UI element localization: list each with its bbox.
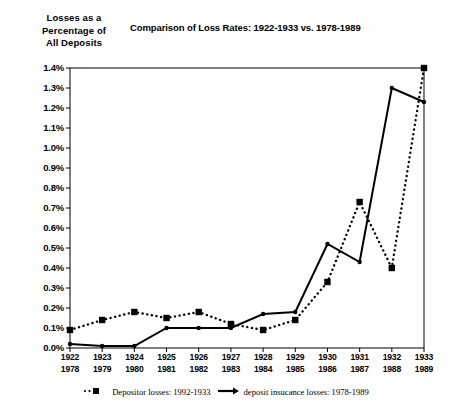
y-tick-label: 0.6% [18,222,64,233]
x-tick-label-bottom: 1989 [402,364,446,374]
legend-entry-depositor-losses: Depositor losses: 1992-1933 [83,386,216,398]
data-point-marker [325,242,329,246]
plot-frame [70,68,424,348]
data-point-marker [163,315,169,321]
series-line-2 [70,88,424,346]
chart-plot-area [0,0,458,411]
legend-label-1: Depositor losses: 1992-1933 [109,387,216,397]
y-tick-label: 0.1% [18,322,64,333]
data-point-marker [67,327,73,333]
y-tick-label: 0.8% [18,182,64,193]
data-point-marker [389,265,395,271]
data-point-marker [260,327,266,333]
data-point-marker [68,342,72,346]
y-tick-label: 1.4% [18,62,64,73]
data-point-marker [229,326,233,330]
data-point-marker [390,86,394,90]
y-tick-label: 1.3% [18,82,64,93]
data-point-marker [356,199,362,205]
y-tick-label: 0.9% [18,162,64,173]
data-point-marker [324,279,330,285]
y-tick-label: 0.4% [18,262,64,273]
data-point-marker [197,326,201,330]
data-point-marker [196,309,202,315]
dotted-square-marker-icon [83,386,109,398]
y-tick-label: 0.2% [18,302,64,313]
data-point-marker [293,310,297,314]
chart-legend: Depositor losses: 1992-1933 deposit insu… [0,386,458,398]
data-point-marker [131,309,137,315]
legend-label-2: deposit insucance losses: 1978-1989 [241,387,375,397]
data-point-marker [100,344,104,348]
data-point-marker [132,344,136,348]
legend-entry-insurance-losses: deposit insucance losses: 1978-1989 [217,386,375,398]
data-point-marker [422,100,426,104]
data-point-marker [261,312,265,316]
data-point-marker [292,317,298,323]
data-point-marker [421,65,427,71]
solid-line-arrow-icon [217,386,241,398]
data-point-marker [357,260,361,264]
y-tick-label: 0.7% [18,202,64,213]
x-tick-label-top: 1933 [402,352,446,362]
data-point-marker [99,317,105,323]
y-tick-label: 0.3% [18,282,64,293]
data-point-marker [164,326,168,330]
y-tick-label: 1.1% [18,122,64,133]
y-tick-label: 1.2% [18,102,64,113]
y-tick-label: 1.0% [18,142,64,153]
chart-svg [0,0,458,411]
y-tick-label: 0.5% [18,242,64,253]
